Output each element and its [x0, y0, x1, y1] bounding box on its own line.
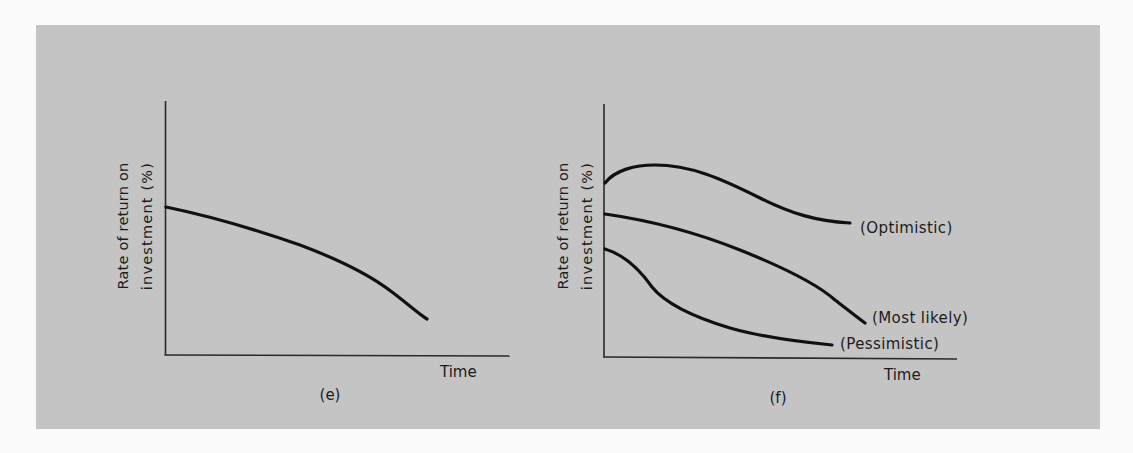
- chart-e-xlabel: Time: [439, 363, 477, 381]
- chart-f-curve-most-likely: [605, 214, 865, 323]
- chart-f-xlabel: Time: [883, 366, 921, 384]
- chart-e-curve-rate-of-return: [166, 207, 427, 319]
- chart-f-ylabel-line2: investment (%): [579, 162, 595, 290]
- chart-e-x-axis: [165, 355, 511, 356]
- chart-f-ylabel-line1: Rate of return on: [555, 163, 571, 290]
- figure-canvas: Rate of return on investment (%) Time (e…: [0, 0, 1133, 453]
- chart-f-curve-optimistic: [605, 165, 850, 223]
- chart-f-label-optimistic: (Optimistic): [860, 219, 953, 237]
- chart-f-curve-pessimistic: [605, 249, 832, 345]
- chart-f-label-pessimistic: (Pessimistic): [840, 335, 939, 353]
- chart-e-ylabel-line1: Rate of return on: [115, 163, 131, 290]
- chart-f-x-axis: [603, 357, 957, 359]
- chart-f-label-most-likely: (Most likely): [872, 309, 968, 327]
- chart-f: (Optimistic) (Most likely) (Pessimistic)…: [555, 104, 968, 407]
- chart-f-panel-label: (f): [770, 389, 787, 407]
- chart-e: Rate of return on investment (%) Time (e…: [115, 101, 510, 404]
- chart-e-panel-label: (e): [320, 386, 341, 404]
- chart-e-ylabel-line2: investment (%): [139, 162, 155, 290]
